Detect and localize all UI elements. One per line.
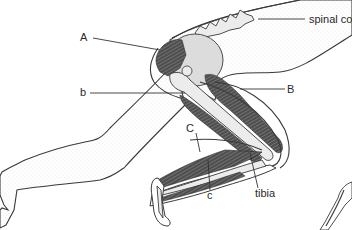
leader-C (196, 133, 200, 152)
label-tibia: tibia (255, 187, 276, 199)
label-c: c (207, 189, 213, 201)
label-B: B (287, 83, 294, 95)
label-spinal-cord: spinal co (309, 13, 352, 25)
leader-A (93, 38, 160, 50)
label-C: C (186, 122, 194, 134)
frog-leg-anatomy-diagram: A b B spinal co C c tibia (0, 0, 352, 230)
label-A: A (80, 31, 88, 43)
label-b: b (80, 86, 86, 98)
foot-right-partial (320, 182, 352, 230)
